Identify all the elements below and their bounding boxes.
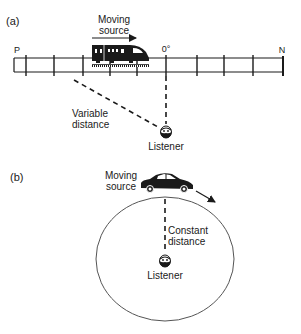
train-icon (92, 45, 149, 67)
panel-b-label: (b) (10, 171, 23, 183)
moving-source-label-line2: source (99, 25, 129, 36)
direction-arrow-b-icon (196, 191, 215, 202)
car-icon (141, 173, 193, 192)
variable-distance-label-line2: distance (72, 119, 110, 130)
moving-source-label-b-line2: source (106, 181, 136, 192)
left-end-label: P (14, 45, 20, 55)
variable-distance-label-line1: Variable (72, 108, 108, 119)
constant-distance-label-line1: Constant (168, 225, 208, 236)
listener-label-a: Listener (148, 141, 184, 152)
right-end-label: N (279, 45, 286, 55)
panel-a-label: (a) (6, 15, 19, 27)
listener-icon (161, 126, 172, 138)
doppler-diagram: (a) Moving source P 0° N (0, 0, 301, 334)
moving-source-label-b-line1: Moving (105, 170, 137, 181)
center-mark-label: 0° (162, 44, 171, 54)
listener-icon-b (160, 255, 171, 267)
panel-a: (a) Moving source P 0° N (6, 14, 285, 152)
moving-source-label-line1: Moving (98, 14, 130, 25)
listener-label-b: Listener (147, 270, 183, 281)
panel-b: (b) Moving source Constant distance (10, 170, 234, 321)
constant-distance-label-line2: distance (168, 236, 206, 247)
